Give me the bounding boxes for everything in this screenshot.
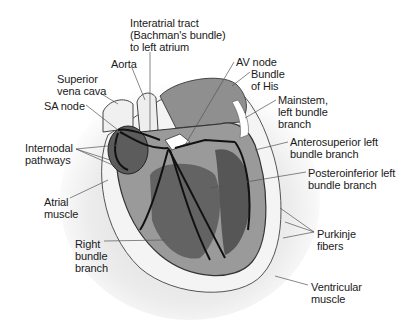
- label-atrial-muscle: Atrial muscle: [44, 196, 78, 220]
- label-ventricular-muscle: Ventricular muscle: [311, 281, 362, 305]
- label-superior-vena-cava: Superior vena cava: [57, 73, 106, 97]
- label-internodal-pathways: Internodal pathways: [25, 142, 73, 166]
- label-aorta: Aorta: [111, 58, 137, 70]
- label-sa-node: SA node: [44, 100, 85, 112]
- label-anterosuperior-left-bundle: Anterosuperior left bundle branch: [290, 136, 378, 160]
- aorta-shape: [137, 93, 158, 134]
- label-interatrial-tract: Interatrial tract (Bachman's bundle) to …: [130, 17, 226, 53]
- label-mainstem-left-bundle: Mainstem, left bundle branch: [278, 94, 328, 130]
- label-bundle-of-his: Bundle of His: [251, 68, 285, 92]
- label-right-bundle-branch: Right bundle branch: [75, 238, 108, 274]
- label-purkinje-fibers: Purkinje fibers: [317, 228, 356, 252]
- label-posteroinferior-left-bundle: Posteroinferior left bundle branch: [308, 167, 395, 191]
- label-av-node: AV node: [236, 56, 277, 68]
